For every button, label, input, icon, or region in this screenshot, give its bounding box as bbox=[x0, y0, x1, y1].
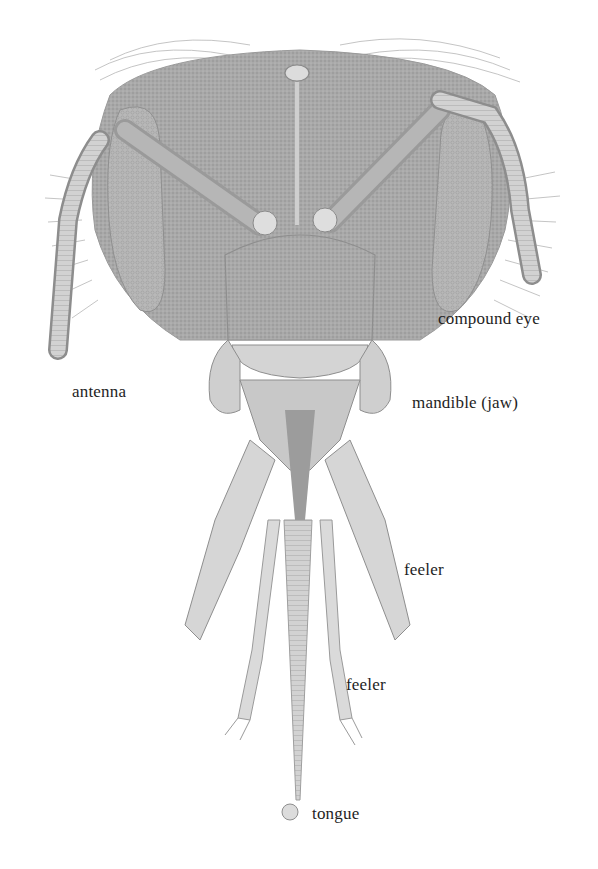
label-feeler-upper: feeler bbox=[404, 561, 444, 578]
tongue bbox=[284, 520, 312, 800]
bee-head-illustration bbox=[0, 0, 598, 869]
label-tongue: tongue bbox=[312, 805, 359, 822]
compound-eye-right bbox=[432, 107, 492, 312]
labrum bbox=[232, 345, 368, 378]
feeler-inner-left bbox=[238, 520, 280, 720]
ocellus bbox=[285, 65, 309, 81]
label-mandible: mandible (jaw) bbox=[412, 394, 518, 411]
label-feeler-lower: feeler bbox=[346, 676, 386, 693]
clypeus bbox=[225, 235, 375, 340]
label-antenna: antenna bbox=[72, 383, 126, 400]
label-compound-eye: compound eye bbox=[438, 310, 540, 327]
